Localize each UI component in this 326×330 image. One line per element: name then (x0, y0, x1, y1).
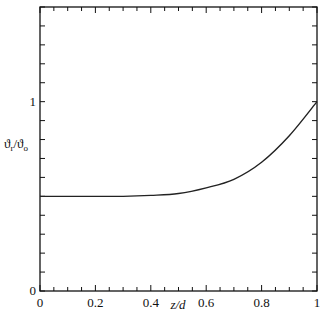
y-tick-label: 0 (30, 283, 37, 298)
data-line (40, 102, 317, 197)
y-tick-label: 1 (30, 94, 37, 109)
x-tick-label: 0.4 (143, 295, 160, 310)
x-axis-ticks (40, 7, 317, 291)
x-tick-label: 0.8 (253, 295, 269, 310)
x-tick-label: 0.2 (87, 295, 103, 310)
y-axis-tick-labels: 01 (30, 94, 37, 298)
x-tick-label: 1 (314, 295, 321, 310)
y-label-sub-o: o (24, 143, 29, 153)
y-axis-label: ϑr/ϑo (4, 136, 29, 153)
y-axis-ticks (40, 7, 317, 291)
line-chart: 00.20.40.60.81 01 z/d ϑr/ϑo (0, 0, 326, 330)
x-axis-label: z/d (169, 297, 186, 312)
x-tick-label: 0 (37, 295, 44, 310)
x-tick-label: 0.6 (198, 295, 215, 310)
plot-frame (40, 7, 317, 291)
